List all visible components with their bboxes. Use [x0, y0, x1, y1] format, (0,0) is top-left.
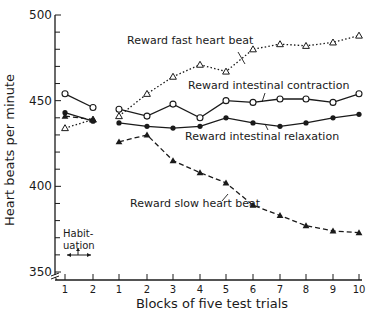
open-circle-marker [356, 91, 362, 97]
open-triangle-marker [303, 42, 310, 48]
open-triangle-marker [62, 125, 69, 131]
axes [51, 15, 362, 280]
y-tick-label: 450 [29, 94, 52, 108]
open-circle-marker [197, 115, 203, 121]
open-circle-marker [116, 106, 122, 112]
filled-circle-marker [277, 124, 282, 129]
open-circle-marker [144, 113, 150, 119]
series-label: Reward intestinal contraction [188, 79, 349, 92]
series-reward-intestinal-relaxation [62, 110, 361, 131]
x-tick-label: 10 [353, 284, 366, 295]
series-reward-intestinal-contraction [62, 91, 362, 121]
leader-line [238, 52, 245, 64]
open-triangle-marker [277, 41, 284, 47]
x-tick-label: 1 [62, 284, 68, 295]
x-tick-label: 3 [170, 284, 176, 295]
filled-circle-marker [116, 120, 121, 125]
open-triangle-marker [116, 113, 123, 119]
series-line [65, 120, 93, 129]
open-circle-marker [303, 96, 309, 102]
x-tick-label: 2 [90, 284, 96, 295]
x-tick-label: 1 [116, 284, 122, 295]
x-axis-title: Blocks of five test trials [136, 296, 288, 311]
filled-circle-marker [223, 115, 228, 120]
x-tick-label: 6 [250, 284, 256, 295]
x-tick-label: 5 [223, 284, 229, 295]
filled-circle-marker [144, 124, 149, 129]
open-triangle-marker [144, 90, 151, 96]
x-tick-label: 2 [144, 284, 150, 295]
filled-triangle-marker [144, 132, 151, 138]
filled-triangle-marker [170, 157, 177, 163]
series-line [119, 114, 359, 128]
open-circle-marker [170, 101, 176, 107]
open-triangle-marker [170, 73, 177, 79]
y-tick-label: 350 [29, 265, 52, 279]
open-circle-marker [330, 99, 336, 105]
filled-circle-marker [330, 115, 335, 120]
x-tick-label: 8 [303, 284, 309, 295]
series-label: Reward intestinal relaxation [185, 130, 339, 143]
y-tick-label: 400 [29, 179, 52, 193]
filled-circle-marker [303, 120, 308, 125]
filled-circle-marker [356, 112, 361, 117]
open-circle-marker [277, 96, 283, 102]
open-circle-marker [90, 105, 96, 111]
filled-circle-marker [170, 125, 175, 130]
open-circle-marker [223, 98, 229, 104]
open-triangle-marker [197, 61, 204, 67]
series-label: Reward slow heart beat [130, 197, 261, 210]
line-chart: 3504004505001212345678910Blocks of five … [0, 0, 376, 322]
series-line [119, 36, 359, 117]
series-line [119, 135, 359, 233]
x-tick-label: 4 [197, 284, 203, 295]
x-tick-label: 7 [277, 284, 283, 295]
series-line [119, 94, 359, 118]
open-triangle-marker [356, 32, 363, 38]
y-axis-title: Heart beats per minute [2, 74, 17, 226]
open-circle-marker [250, 99, 256, 105]
filled-circle-marker [197, 124, 202, 129]
series-label: Reward fast heart beat [127, 34, 254, 47]
habituation-label: Habit- [63, 228, 94, 239]
y-tick-label: 500 [29, 8, 52, 22]
series-line [65, 94, 93, 108]
open-circle-marker [62, 91, 68, 97]
annotations: 3504004505001212345678910Blocks of five … [2, 8, 365, 311]
x-tick-label: 9 [330, 284, 336, 295]
filled-circle-marker [250, 120, 255, 125]
